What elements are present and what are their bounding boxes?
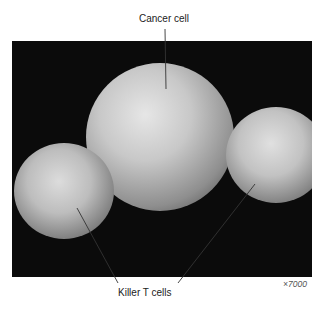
cancer-cell-label: Cancer cell <box>139 13 189 24</box>
killer-t-cell-right <box>226 107 312 203</box>
killer-t-cell-left <box>14 143 114 239</box>
killer-t-cells-label: Killer T cells <box>118 287 172 298</box>
sem-micrograph <box>12 41 312 277</box>
magnification-label: ×7000 <box>283 279 307 289</box>
